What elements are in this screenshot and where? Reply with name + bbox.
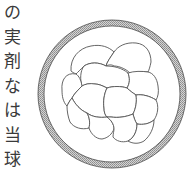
blastomere-cells [62, 43, 159, 143]
morula-diagram [0, 0, 192, 178]
